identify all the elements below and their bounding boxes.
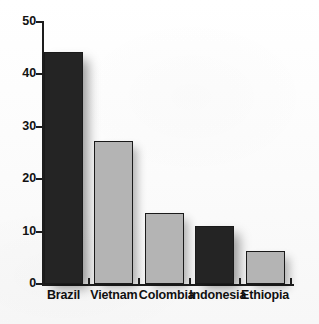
category-label-brazil: Brazil <box>38 288 89 303</box>
category-label-ethiopia: Ethiopia <box>240 288 291 303</box>
x-axis-line <box>42 284 294 286</box>
y-tick-mark <box>36 126 43 128</box>
bar-colombia[interactable] <box>145 213 184 284</box>
y-tick-label: 30 <box>0 120 36 133</box>
category-label-colombia: Colombia <box>139 288 190 303</box>
bar-ethiopia[interactable] <box>246 251 285 284</box>
y-tick-mark <box>36 283 43 285</box>
y-tick-mark <box>36 21 43 23</box>
y-tick-label: 20 <box>0 172 36 185</box>
bar-chart-figure: 01020304050 BrazilVietnamColombiaIndones… <box>0 0 319 324</box>
category-label-vietnam: Vietnam <box>88 288 139 303</box>
x-tick-mark <box>88 278 90 286</box>
x-tick-mark <box>239 278 241 286</box>
x-tick-mark <box>189 278 191 286</box>
y-tick-label: 40 <box>0 67 36 80</box>
y-tick-label: 0 <box>0 277 36 290</box>
y-tick-mark <box>36 231 43 233</box>
y-tick-mark <box>36 178 43 180</box>
category-label-indonesia: Indonesia <box>189 288 240 303</box>
plot-area: 01020304050 BrazilVietnamColombiaIndones… <box>0 0 319 324</box>
y-tick-mark <box>36 73 43 75</box>
x-tick-mark <box>290 278 292 286</box>
bar-vietnam[interactable] <box>94 141 133 284</box>
bar-indonesia[interactable] <box>195 226 234 284</box>
bar-brazil[interactable] <box>44 52 83 284</box>
y-tick-label: 50 <box>0 15 36 28</box>
x-tick-mark <box>138 278 140 286</box>
y-tick-label: 10 <box>0 225 36 238</box>
